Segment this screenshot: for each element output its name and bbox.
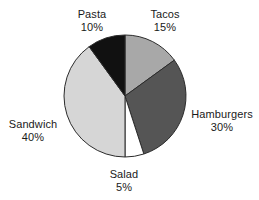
slice-label-tacos-name: Tacos [138, 8, 192, 21]
slice-label-sandwich: Sandwich 40% [2, 118, 64, 143]
slice-label-salad-percent: 5% [98, 181, 150, 194]
slice-label-salad-name: Salad [98, 168, 150, 181]
pie-slice-group [64, 35, 186, 157]
slice-label-sandwich-percent: 40% [2, 131, 64, 144]
slice-label-tacos-percent: 15% [138, 21, 192, 34]
slice-label-hamburgers: Hamburgers 30% [186, 108, 258, 133]
slice-label-hamburgers-percent: 30% [186, 121, 258, 134]
slice-label-pasta: Pasta 10% [64, 8, 120, 33]
slice-label-tacos: Tacos 15% [138, 8, 192, 33]
slice-label-salad: Salad 5% [98, 168, 150, 193]
pie-chart-figure: Pasta 10% Tacos 15% Hamburgers 30% Sandw… [0, 0, 259, 200]
slice-label-hamburgers-name: Hamburgers [186, 108, 258, 121]
slice-label-pasta-percent: 10% [64, 21, 120, 34]
slice-label-sandwich-name: Sandwich [2, 118, 64, 131]
slice-label-pasta-name: Pasta [64, 8, 120, 21]
